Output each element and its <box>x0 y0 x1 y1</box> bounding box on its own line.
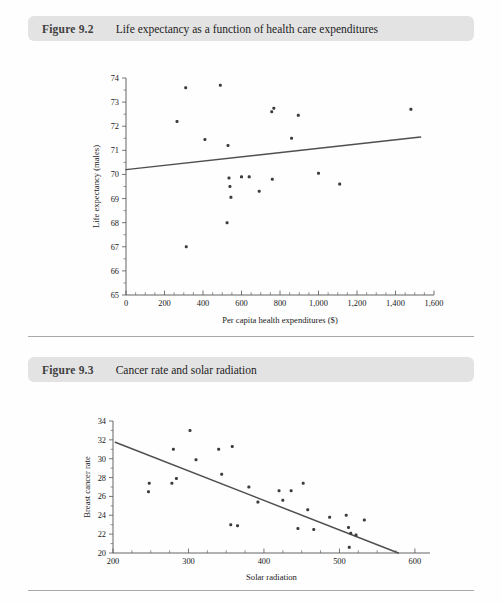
data-point <box>306 508 309 511</box>
data-point <box>172 448 175 451</box>
x-tick-label: 500 <box>333 557 346 566</box>
data-point <box>220 473 223 476</box>
data-point <box>175 477 178 480</box>
data-point <box>188 429 191 432</box>
x-tick-label: 200 <box>107 557 120 566</box>
data-point <box>147 490 150 493</box>
y-axis-title: Breast cancer rate <box>82 456 92 518</box>
data-point <box>248 175 251 178</box>
data-point <box>185 245 188 248</box>
data-point <box>227 177 230 180</box>
data-point <box>247 486 250 489</box>
y-tick-label: 70 <box>111 170 119 179</box>
data-point <box>229 523 232 526</box>
data-point <box>184 86 187 89</box>
data-point <box>271 178 274 181</box>
y-axis-title: Life expectancy (males) <box>91 145 101 228</box>
y-tick-label: 30 <box>98 455 106 464</box>
data-point <box>272 107 275 110</box>
data-point <box>228 185 231 188</box>
y-tick-label: 22 <box>98 530 106 539</box>
chart-2-svg: 2022242628303234200300400500600Solar rad… <box>0 405 502 580</box>
data-point <box>278 489 281 492</box>
x-tick-label: 200 <box>158 299 171 308</box>
data-point <box>256 501 259 504</box>
x-tick-label: 800 <box>274 299 287 308</box>
y-tick-label: 68 <box>111 219 119 228</box>
x-tick-label: 600 <box>409 557 422 566</box>
data-point <box>312 528 315 531</box>
data-point <box>302 482 305 485</box>
data-point <box>290 137 293 140</box>
data-point <box>226 221 229 224</box>
y-tick-label: 34 <box>98 417 107 426</box>
x-tick-label: 300 <box>182 557 195 566</box>
data-point <box>195 458 198 461</box>
y-tick-label: 65 <box>111 291 119 300</box>
x-tick-label: 400 <box>197 299 210 308</box>
data-point <box>338 183 341 186</box>
page-canvas: Figure 9.2 Life expectancy as a function… <box>0 0 502 604</box>
data-point <box>349 532 352 535</box>
data-point <box>270 110 273 113</box>
data-point <box>290 489 293 492</box>
data-point <box>240 175 243 178</box>
y-tick-label: 71 <box>111 146 119 155</box>
data-point <box>363 519 366 522</box>
data-point <box>203 138 206 141</box>
x-tick-label: 0 <box>124 299 128 308</box>
y-tick-label: 32 <box>98 436 106 445</box>
figure-caption: Cancer rate and solar radiation <box>116 364 257 376</box>
data-point <box>409 108 412 111</box>
data-point <box>170 482 173 485</box>
y-tick-label: 74 <box>111 74 120 83</box>
data-point <box>317 172 320 175</box>
data-point <box>355 534 358 537</box>
section-divider-2 <box>28 590 474 591</box>
data-point <box>347 526 350 529</box>
data-point <box>348 546 351 549</box>
x-tick-label: 1,400 <box>386 299 405 308</box>
figure-header-9-3: Figure 9.3 Cancer rate and solar radiati… <box>28 357 474 382</box>
data-point <box>296 527 299 530</box>
y-tick-label: 72 <box>111 122 119 131</box>
x-tick-label: 1,000 <box>309 299 328 308</box>
figure-number: Figure 9.2 <box>42 23 94 35</box>
figure-number: Figure 9.3 <box>42 364 94 376</box>
y-tick-label: 69 <box>111 195 119 204</box>
y-tick-label: 66 <box>111 267 119 276</box>
data-point <box>148 482 151 485</box>
y-tick-label: 67 <box>111 243 119 252</box>
section-divider-1 <box>28 336 474 337</box>
x-tick-label: 600 <box>235 299 248 308</box>
x-axis-title: Solar radiation <box>246 572 298 580</box>
chart-life-expectancy: 6566676869707172737402004006008001,0001,… <box>0 60 502 325</box>
data-point <box>219 84 222 87</box>
x-tick-label: 400 <box>258 557 271 566</box>
data-point <box>227 144 230 147</box>
y-tick-label: 26 <box>98 492 106 501</box>
data-point <box>297 114 300 117</box>
data-point <box>217 448 220 451</box>
data-point <box>231 445 234 448</box>
data-point <box>236 524 239 527</box>
data-point <box>258 190 261 193</box>
regression-line <box>126 137 421 170</box>
data-point <box>229 196 232 199</box>
data-point <box>281 499 284 502</box>
chart-1-svg: 6566676869707172737402004006008001,0001,… <box>0 60 502 325</box>
data-point <box>328 516 331 519</box>
data-point <box>176 120 179 123</box>
chart-cancer-solar: 2022242628303234200300400500600Solar rad… <box>0 405 502 580</box>
x-tick-label: 1,600 <box>425 299 444 308</box>
y-tick-label: 73 <box>111 98 119 107</box>
data-point <box>345 514 348 517</box>
figure-caption: Life expectancy as a function of health … <box>116 23 378 35</box>
y-tick-label: 28 <box>98 474 106 483</box>
x-tick-label: 1,200 <box>348 299 367 308</box>
y-tick-label: 24 <box>98 511 107 520</box>
figure-header-9-2: Figure 9.2 Life expectancy as a function… <box>28 16 474 41</box>
y-tick-label: 20 <box>98 549 106 558</box>
x-axis-title: Per capita health expenditures ($) <box>222 315 338 325</box>
